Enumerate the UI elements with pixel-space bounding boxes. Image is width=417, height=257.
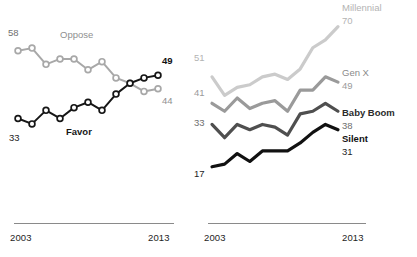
data-point [29, 45, 35, 51]
x-tick-end-right: 2013 [342, 232, 364, 243]
series-label-babyboom: Baby Boom [342, 108, 395, 118]
value-label-favor-start: 33 [9, 133, 20, 143]
panel-generations: Millennial 70 51 Gen X 49 41 Baby Boom 3… [190, 0, 417, 257]
data-point [15, 48, 21, 54]
value-label-millennial-start: 51 [194, 53, 205, 63]
generations-plot [190, 0, 417, 257]
data-point [99, 59, 105, 65]
data-point [43, 61, 49, 67]
value-label-silent-start: 17 [194, 169, 205, 179]
data-point [71, 105, 77, 111]
chart-figure: Oppose 58 44 Favor 33 49 2003 2013 Mille… [0, 0, 417, 257]
value-label-millennial-end: 70 [342, 16, 353, 26]
data-point [71, 56, 77, 62]
series-label-favor: Favor [66, 127, 92, 137]
series-label-silent: Silent [342, 134, 368, 144]
series-label-genx: Gen X [342, 68, 369, 78]
data-point [99, 107, 105, 113]
data-point [113, 91, 119, 97]
data-point [85, 99, 91, 105]
data-point [155, 72, 161, 78]
value-label-genx-end: 49 [342, 81, 353, 91]
x-axis-line-left [14, 223, 174, 224]
data-point [155, 86, 161, 92]
x-tick-start-right: 2003 [204, 232, 226, 243]
x-tick-end-left: 2013 [148, 232, 170, 243]
data-point [57, 116, 63, 122]
value-label-favor-end: 49 [162, 56, 173, 66]
value-label-oppose-end: 44 [162, 96, 173, 106]
attitudes-plot [0, 0, 190, 257]
value-label-babyboom-start: 33 [194, 118, 205, 128]
data-point [15, 116, 21, 122]
data-point [113, 75, 119, 81]
series-label-oppose: Oppose [60, 30, 93, 40]
data-point [141, 75, 147, 81]
data-point [85, 67, 91, 73]
series-line-baby-boom [212, 103, 338, 137]
data-point [127, 80, 133, 86]
panel-attitudes: Oppose 58 44 Favor 33 49 2003 2013 [0, 0, 190, 257]
value-label-oppose-start: 58 [8, 28, 19, 38]
data-point [57, 56, 63, 62]
value-label-silent-end: 31 [342, 147, 353, 157]
data-point [141, 89, 147, 95]
value-label-babyboom-end: 38 [342, 121, 353, 131]
value-label-genx-start: 41 [194, 88, 205, 98]
x-tick-start-left: 2003 [10, 232, 32, 243]
x-axis-line-right [208, 223, 366, 224]
data-point [43, 107, 49, 113]
series-label-millennial: Millennial [342, 3, 382, 13]
data-point [29, 121, 35, 127]
